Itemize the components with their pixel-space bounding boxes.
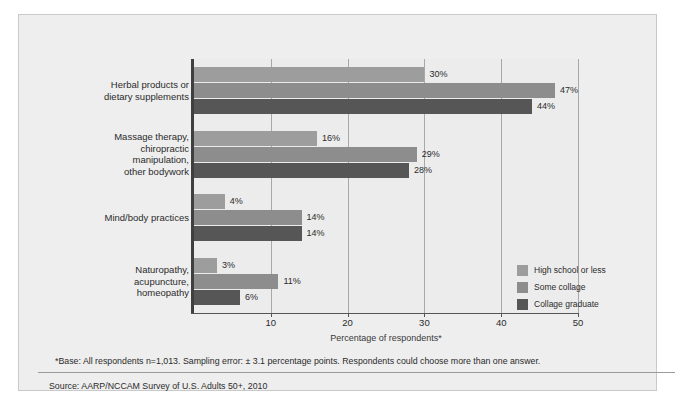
legend-swatch-high-school [517, 265, 528, 276]
category-label-mindbody: Mind/body practices [49, 212, 189, 224]
legend-item-high-school: High school or less [517, 263, 635, 277]
y-axis-line [191, 59, 194, 313]
bar-0-3 [194, 258, 217, 273]
bar-value-label-1-2: 14% [307, 210, 325, 225]
bar-value-label-0-1: 16% [322, 131, 340, 146]
legend-swatch-college-graduate [517, 299, 528, 310]
x-tick-label-40: 40 [496, 317, 507, 328]
bar-value-label-2-0: 44% [537, 99, 555, 114]
chart-frame: Herbal products ordietary supplements Ma… [18, 14, 657, 391]
x-tick-label-10: 10 [266, 317, 277, 328]
bar-1-2 [194, 210, 302, 225]
legend-item-college-graduate: Collage graduate [517, 297, 635, 311]
bar-value-label-0-2: 4% [230, 194, 243, 209]
bar-value-label-0-3: 3% [222, 258, 235, 273]
bar-value-label-0-0: 30% [429, 67, 447, 82]
bar-0-1 [194, 131, 317, 146]
x-axis-title: Percentage of respondents* [194, 333, 578, 343]
bar-0-2 [194, 194, 225, 209]
bar-0-0 [194, 67, 424, 82]
chart-figure: Herbal products ordietary supplements Ma… [0, 0, 675, 405]
footnote-base: *Base: All respondents n=1,013. Sampling… [55, 356, 540, 366]
bar-2-1 [194, 163, 409, 178]
x-tick-label-50: 50 [573, 317, 584, 328]
category-label-massage: Massage therapy,chiropracticmanipulation… [49, 131, 189, 177]
bar-1-0 [194, 83, 555, 98]
bar-2-0 [194, 99, 532, 114]
bar-value-label-2-1: 28% [414, 163, 432, 178]
footnote-divider [38, 372, 675, 373]
legend-swatch-some-college [517, 282, 528, 293]
bar-2-3 [194, 290, 240, 305]
x-tick-label-30: 30 [419, 317, 430, 328]
bar-value-label-1-0: 47% [560, 83, 578, 98]
category-label-naturopathy: Naturopathy,acupuncture,homeopathy [49, 264, 189, 299]
bar-value-label-1-3: 11% [283, 274, 300, 289]
bar-1-1 [194, 147, 417, 162]
legend-label-high-school: High school or less [534, 265, 606, 275]
bar-value-label-2-2: 14% [307, 226, 325, 241]
chart-legend: High school or less Some collage Collage… [517, 263, 635, 314]
category-label-herbal: Herbal products ordietary supplements [49, 79, 189, 102]
x-tick-label-20: 20 [342, 317, 353, 328]
legend-item-some-college: Some collage [517, 280, 635, 294]
legend-label-some-college: Some collage [534, 282, 586, 292]
bar-value-label-2-3: 6% [245, 290, 258, 305]
source-line: Source: AARP/NCCAM Survey of U.S. Adults… [49, 381, 267, 391]
bar-2-2 [194, 226, 302, 241]
bar-1-3 [194, 274, 278, 289]
category-axis-labels: Herbal products ordietary supplements Ma… [44, 59, 189, 313]
bar-value-label-1-1: 29% [422, 147, 440, 162]
legend-label-college-graduate: Collage graduate [534, 299, 599, 309]
